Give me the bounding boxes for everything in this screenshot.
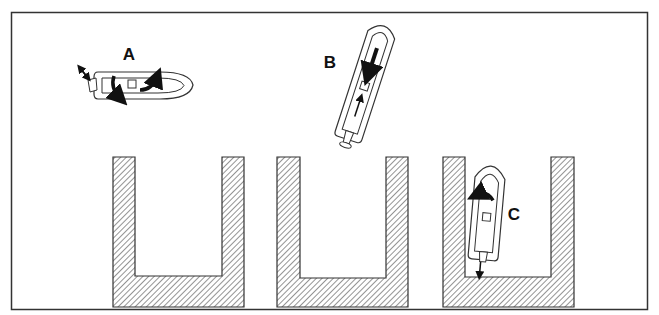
outboard-motor-icon	[479, 251, 488, 262]
label-a: A	[123, 45, 135, 64]
console-icon	[482, 213, 491, 222]
boat-a	[80, 68, 193, 99]
outboard-motor-icon	[88, 78, 97, 92]
docking-diagram: A B C	[0, 0, 659, 315]
console-icon	[360, 81, 370, 91]
boat-b	[331, 22, 397, 152]
dock-1	[113, 157, 244, 307]
label-c: C	[508, 205, 520, 224]
stern-arrow-down-icon	[479, 262, 480, 276]
console-icon	[128, 80, 136, 88]
dock-2	[277, 157, 408, 307]
boat-c	[466, 165, 505, 277]
dock-3	[443, 157, 574, 307]
label-b: B	[324, 53, 336, 72]
